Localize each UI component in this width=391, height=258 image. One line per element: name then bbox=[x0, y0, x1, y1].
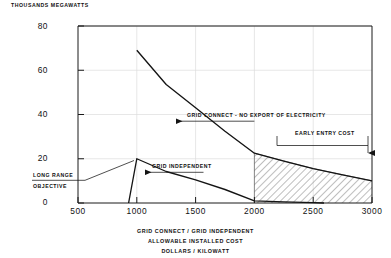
grid-independent-series-label: GRID INDEPENDENT bbox=[152, 163, 212, 169]
gridlines-horizontal bbox=[78, 26, 372, 159]
y-tick-label: 40 bbox=[26, 109, 48, 119]
x-axis-title-line-2: ALLOWABLE INSTALLED COST bbox=[0, 238, 391, 244]
x-tick-label: 1000 bbox=[117, 206, 157, 216]
x-tick-label: 2000 bbox=[234, 206, 274, 216]
chart-figure: THOUSANDS MEGAWATTS bbox=[0, 0, 391, 258]
y-tick-label: 80 bbox=[26, 21, 48, 31]
y-tick-label: 20 bbox=[26, 153, 48, 163]
x-tick-label: 500 bbox=[58, 206, 98, 216]
chart-plot-svg bbox=[0, 0, 391, 258]
x-axis-title-line-3: DOLLARS / KILOWATT bbox=[0, 248, 391, 254]
x-axis-title-line-1: GRID CONNECT / GRID INDEPENDENT bbox=[0, 228, 391, 234]
long-range-objective-line-2: OBJECTIVE bbox=[33, 183, 67, 189]
x-tick-label: 1500 bbox=[176, 206, 216, 216]
long-range-objective-line-1: LONG RANGE bbox=[33, 172, 73, 178]
early-entry-cost-annotation-label: EARLY ENTRY COST bbox=[295, 130, 355, 136]
grid-connect-series-label: GRID CONNECT - NO EXPORT OF ELECTRICITY bbox=[187, 112, 326, 118]
x-tick-label: 2500 bbox=[293, 206, 333, 216]
y-tick-label: 0 bbox=[26, 197, 48, 207]
x-tick-label: 3000 bbox=[352, 206, 391, 216]
y-tick-label: 60 bbox=[26, 65, 48, 75]
early-entry-cost-bracket bbox=[277, 136, 368, 153]
y-tick-marks bbox=[78, 26, 84, 203]
